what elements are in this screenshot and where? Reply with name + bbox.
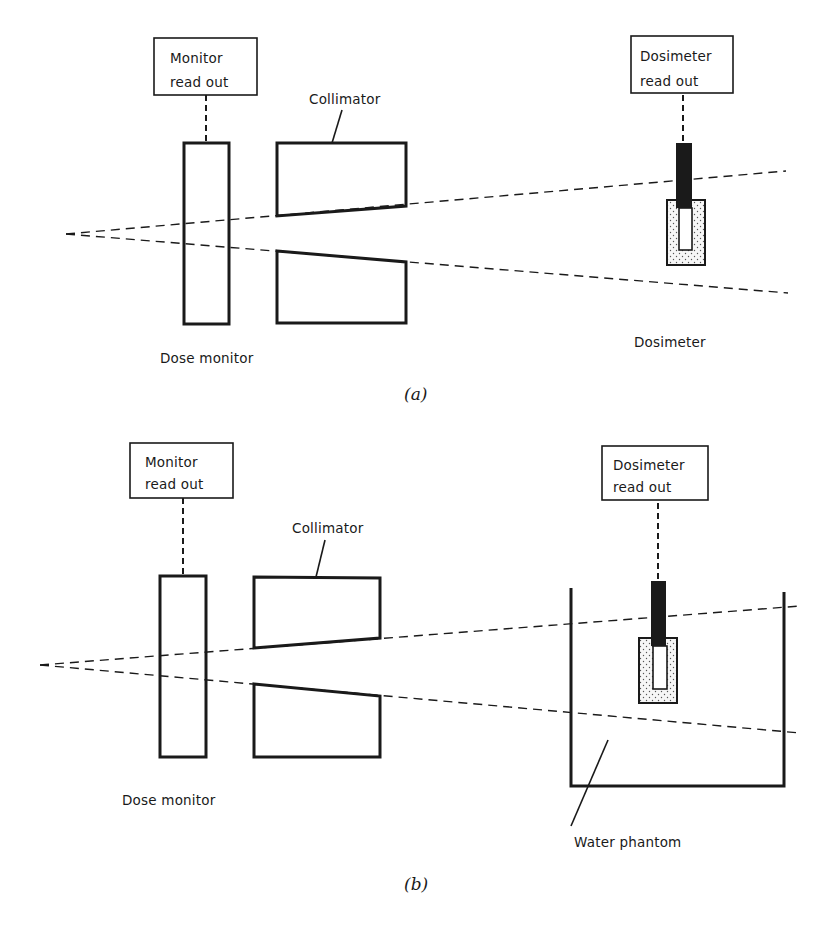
dose-monitor-label: Dose monitor (160, 350, 254, 366)
dose-monitor (160, 576, 206, 757)
panel-a-caption: (a) (404, 384, 427, 404)
water-phantom-leader (571, 740, 608, 826)
dosimeter-readout-line2: read out (640, 73, 698, 89)
monitor-readout-box: Monitor read out (130, 443, 233, 498)
panel-b: Monitor read out Collimator Dosimeter re… (40, 443, 800, 894)
collimator-label: Collimator (309, 91, 381, 107)
monitor-readout-line1: Monitor (145, 454, 198, 470)
dosimeter-readout-box: Dosimeter read out (602, 446, 708, 500)
panel-b-caption: (b) (404, 874, 428, 894)
collimator-label: Collimator (292, 520, 364, 536)
dosimeter-readout-line1: Dosimeter (640, 48, 712, 64)
panel-a: Monitor read out Collimator Dosimeter re… (66, 36, 788, 404)
monitor-readout-line2: read out (170, 74, 228, 90)
dosimeter-readout-box: Dosimeter read out (631, 36, 733, 93)
dosimeter-readout-line1: Dosimeter (613, 457, 685, 473)
dosimeter (667, 143, 705, 265)
beam-edge-lower (40, 665, 800, 733)
dosimeter (639, 581, 677, 703)
beam-edge-upper (40, 606, 800, 665)
monitor-readout-line2: read out (145, 476, 203, 492)
dose-monitor-label: Dose monitor (122, 792, 216, 808)
water-phantom-label: Water phantom (574, 834, 681, 850)
dosimeter-label: Dosimeter (634, 334, 706, 350)
dosimeter-readout-line2: read out (613, 479, 671, 495)
dosimetry-diagram: Monitor read out Collimator Dosimeter re… (0, 0, 836, 926)
collimator (277, 143, 406, 323)
monitor-readout-box: Monitor read out (154, 38, 257, 95)
collimator-leader (332, 110, 342, 143)
monitor-readout-line1: Monitor (170, 50, 223, 66)
dose-monitor (184, 143, 229, 324)
collimator (254, 577, 380, 757)
collimator-leader (316, 540, 325, 577)
